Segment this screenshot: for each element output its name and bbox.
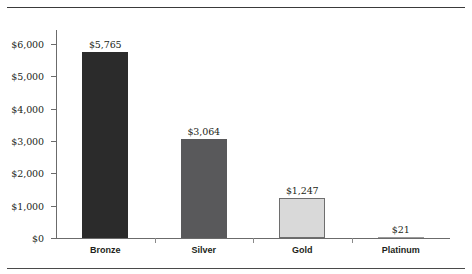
category-label-platinum: Platinum bbox=[356, 245, 446, 255]
bar-value-label: $3,064 bbox=[164, 126, 244, 137]
y-tick-label: $5,000 bbox=[0, 71, 44, 82]
x-tick-mark bbox=[253, 238, 254, 243]
bottom-divider-rule bbox=[7, 268, 465, 269]
category-label-bronze: Bronze bbox=[60, 245, 150, 255]
x-tick-mark bbox=[155, 238, 156, 243]
y-tick-mark bbox=[51, 44, 56, 45]
y-tick-mark bbox=[51, 76, 56, 77]
y-tick-label: $4,000 bbox=[0, 103, 44, 114]
y-tick-mark bbox=[51, 206, 56, 207]
category-label-gold: Gold bbox=[257, 245, 347, 255]
y-tick-label: $6,000 bbox=[0, 39, 44, 50]
bar-value-label: $21 bbox=[361, 224, 441, 235]
top-divider-rule bbox=[7, 7, 465, 8]
y-tick-label: $0 bbox=[0, 233, 44, 244]
category-label-silver: Silver bbox=[159, 245, 249, 255]
bar-value-label: $1,247 bbox=[262, 185, 342, 196]
y-tick-label: $3,000 bbox=[0, 136, 44, 147]
bar-silver bbox=[181, 139, 227, 238]
y-tick-mark bbox=[51, 173, 56, 174]
bar-gold bbox=[279, 198, 325, 238]
y-tick-label: $2,000 bbox=[0, 168, 44, 179]
bar-value-label: $5,765 bbox=[65, 39, 145, 50]
chart-figure: $0$1,000$2,000$3,000$4,000$5,000$6,000 $… bbox=[0, 0, 472, 274]
y-tick-label: $1,000 bbox=[0, 200, 44, 211]
y-tick-mark bbox=[51, 109, 56, 110]
y-axis-line bbox=[56, 30, 57, 238]
y-tick-mark bbox=[51, 238, 56, 239]
bar-platinum bbox=[378, 237, 424, 239]
x-tick-mark bbox=[352, 238, 353, 243]
bar-bronze bbox=[82, 52, 128, 238]
y-tick-mark bbox=[51, 141, 56, 142]
